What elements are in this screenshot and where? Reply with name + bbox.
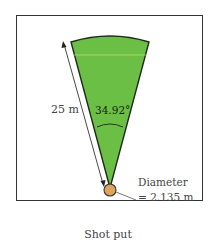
throwing-circle (104, 184, 116, 196)
angle-label: 34.92° (95, 104, 130, 116)
figure-caption: Shot put (0, 228, 216, 241)
arrowhead-top-icon (62, 41, 67, 48)
arrowhead-bottom-icon (101, 180, 106, 187)
shot-put-diagram: 25 m 34.92° Diameter = 2.135 m (0, 0, 216, 251)
diameter-leader-line (116, 192, 136, 200)
diameter-label-line1: Diameter (138, 176, 189, 188)
radius-label: 25 m (51, 103, 79, 116)
diameter-label-line2: = 2.135 m (138, 191, 194, 203)
